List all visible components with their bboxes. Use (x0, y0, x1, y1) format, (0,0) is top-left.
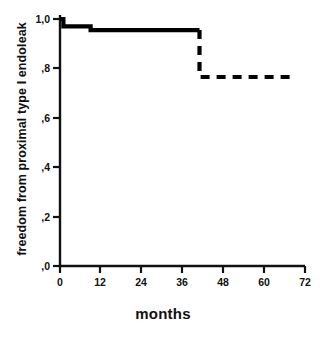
y-tick-label-0-2: ,2 (24, 211, 50, 223)
y-tick-label-0-0: ,0 (24, 260, 50, 272)
x-tick-label-48: 48 (210, 276, 236, 288)
x-axis-title: months (0, 305, 326, 322)
x-tick-label-0: 0 (47, 276, 73, 288)
x-tick-label-60: 60 (251, 276, 277, 288)
x-tick-label-36: 36 (169, 276, 195, 288)
y-tick-label-0-6: ,6 (24, 112, 50, 124)
y-tick-label-0-4: ,4 (24, 161, 50, 173)
x-tick-label-72: 72 (292, 276, 318, 288)
x-tick-label-12: 12 (87, 276, 113, 288)
x-tick-label-24: 24 (128, 276, 154, 288)
plot-area (0, 0, 326, 300)
y-tick-label-0-8: ,8 (24, 62, 50, 74)
y-tick-label-1-0: 1,0 (24, 13, 50, 25)
km-curve-solid (60, 19, 200, 30)
kaplan-meier-figure: freedom from proximal type I endoleak (0, 0, 326, 339)
km-curve-dashed (200, 30, 292, 77)
